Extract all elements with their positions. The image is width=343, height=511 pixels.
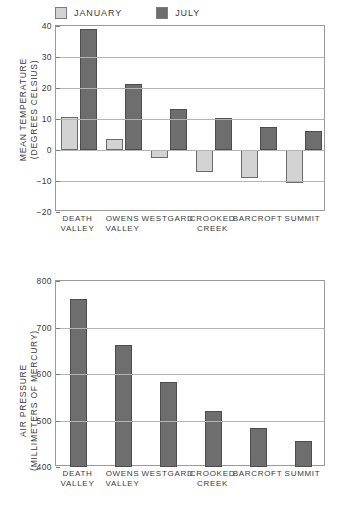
bar-temperature-1-0 xyxy=(106,139,123,150)
gridline xyxy=(56,150,324,151)
x-axis-label: CROOKED CREEK xyxy=(190,469,235,489)
y-tick-mark xyxy=(56,57,60,58)
y-tick-mark xyxy=(56,467,60,468)
y-tick-label: 0 xyxy=(47,145,52,155)
y-tick-mark xyxy=(56,26,60,27)
bar-temperature-5-0 xyxy=(286,150,303,183)
y-tick-label: −10 xyxy=(36,176,52,186)
bars-layer-pressure xyxy=(56,281,324,465)
y-tick-label: −20 xyxy=(36,207,52,217)
x-axis-label: WESTGARD xyxy=(142,469,194,479)
x-axis-label: DEATH VALLEY xyxy=(61,469,95,489)
plot-area-temperature: 403020100−10−20 xyxy=(55,25,325,211)
legend-entry-january: JANUARY xyxy=(55,7,122,19)
bar-temperature-3-0 xyxy=(196,150,213,172)
bar-pressure-4-0 xyxy=(250,428,267,467)
x-axis-label: OWENS VALLEY xyxy=(106,469,140,489)
bar-temperature-3-1 xyxy=(215,118,232,150)
pressure-chart-figure: AIR PRESSURE (MILLIMETERS OF MERCURY) 80… xyxy=(0,255,343,511)
legend-entry-july: JULY xyxy=(156,7,200,19)
bar-temperature-2-1 xyxy=(170,109,187,150)
y-tick-label: 40 xyxy=(42,21,52,31)
plot-area-pressure: 800700600500400 xyxy=(55,280,325,466)
bar-temperature-0-0 xyxy=(61,117,78,150)
chart-legend: JANUARY JULY xyxy=(55,6,200,20)
gridline xyxy=(56,421,324,422)
y-tick-mark xyxy=(56,181,60,182)
bar-temperature-5-1 xyxy=(305,131,322,150)
y-tick-label: 30 xyxy=(42,52,52,62)
bar-pressure-5-0 xyxy=(295,441,312,467)
x-axis-label: BARCROFT xyxy=(233,214,283,224)
y-tick-label: 500 xyxy=(37,416,52,426)
gridline xyxy=(56,119,324,120)
y-tick-label: 20 xyxy=(42,83,52,93)
x-axis-label: CROOKED CREEK xyxy=(190,214,235,234)
bar-pressure-0-0 xyxy=(70,299,87,467)
y-tick-label: 700 xyxy=(37,323,52,333)
bar-temperature-4-1 xyxy=(260,127,277,150)
y-tick-mark xyxy=(56,212,60,213)
x-axis-label: BARCROFT xyxy=(233,469,283,479)
y-tick-label: 600 xyxy=(37,369,52,379)
x-axis-label: OWENS VALLEY xyxy=(106,214,140,234)
temperature-chart-figure: JANUARY JULY MEAN TEMPERATURE (DEGREES C… xyxy=(0,0,343,255)
y-axis-title-pressure: AIR PRESSURE (MILLIMETERS OF MERCURY) xyxy=(18,330,40,471)
legend-swatch-july-icon xyxy=(156,7,168,19)
legend-swatch-january-icon xyxy=(55,7,67,19)
y-tick-mark xyxy=(56,421,60,422)
y-tick-label: 400 xyxy=(37,462,52,472)
gridline xyxy=(56,57,324,58)
x-axis-label: SUMMIT xyxy=(285,214,321,224)
y-tick-mark xyxy=(56,328,60,329)
bars-layer-temperature xyxy=(56,26,324,210)
x-axis-label: WESTGARD xyxy=(142,214,194,224)
x-axis-label: DEATH VALLEY xyxy=(61,214,95,234)
bar-temperature-2-0 xyxy=(151,150,168,158)
y-tick-mark xyxy=(56,281,60,282)
gridline xyxy=(56,88,324,89)
bar-pressure-2-0 xyxy=(160,382,177,467)
y-tick-mark xyxy=(56,374,60,375)
bar-pressure-1-0 xyxy=(115,345,132,467)
gridline xyxy=(56,181,324,182)
x-axis-label: SUMMIT xyxy=(285,469,321,479)
gridline xyxy=(56,374,324,375)
bar-temperature-0-1 xyxy=(80,29,97,150)
y-tick-mark xyxy=(56,119,60,120)
bar-temperature-4-0 xyxy=(241,150,258,178)
y-tick-mark xyxy=(56,88,60,89)
y-tick-label: 10 xyxy=(42,114,52,124)
y-tick-label: 800 xyxy=(37,276,52,286)
gridline xyxy=(56,328,324,329)
bar-temperature-1-1 xyxy=(125,84,142,150)
legend-label-january: JANUARY xyxy=(74,8,122,18)
y-axis-title-temperature: MEAN TEMPERATURE (DEGREES CELSIUS) xyxy=(18,58,40,161)
y-tick-mark xyxy=(56,150,60,151)
legend-label-july: JULY xyxy=(175,8,200,18)
